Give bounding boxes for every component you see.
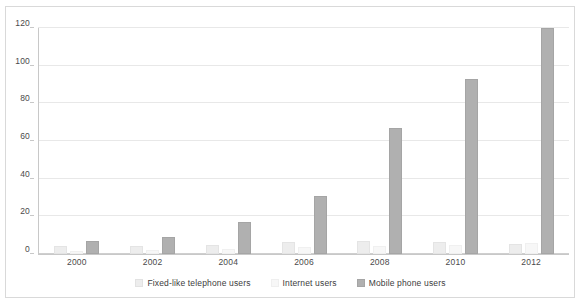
bar-group-2004 <box>190 28 266 254</box>
bar-group-2010 <box>418 28 494 254</box>
bar-2004-fixed[interactable] <box>206 245 219 254</box>
bar-2010-internet[interactable] <box>449 245 462 254</box>
y-axis-tick <box>30 215 34 216</box>
legend-swatch-icon <box>357 279 365 287</box>
bar-group-2008 <box>342 28 418 254</box>
bar-groups <box>39 28 569 254</box>
bar-2012-internet[interactable] <box>525 243 538 254</box>
legend-swatch-icon <box>135 279 143 287</box>
y-axis-tick <box>30 102 34 103</box>
y-axis: 020406080100120 <box>0 28 34 254</box>
legend-label: Internet users <box>283 278 337 288</box>
y-axis-tick <box>30 27 34 28</box>
bar-2008-fixed[interactable] <box>357 241 370 254</box>
bar-2010-fixed[interactable] <box>433 242 446 254</box>
y-axis-tick-label: 80 <box>20 93 30 103</box>
bar-group-2012 <box>493 28 569 254</box>
x-axis-tick-label: 2004 <box>190 257 266 271</box>
bar-group-2000 <box>39 28 115 254</box>
bar-2002-mobile[interactable] <box>162 237 175 254</box>
x-axis-tick-label: 2006 <box>266 257 342 271</box>
bar-2000-mobile[interactable] <box>86 241 99 254</box>
y-axis-tick <box>30 178 34 179</box>
x-axis-tick-label: 2002 <box>115 257 191 271</box>
y-axis-tick <box>30 140 34 141</box>
y-axis-tick-label: 100 <box>15 56 30 66</box>
bar-2006-internet[interactable] <box>298 247 311 254</box>
x-axis-tick-label: 2010 <box>418 257 494 271</box>
y-axis-tick-label: 20 <box>20 206 30 216</box>
x-axis-tick-label: 2012 <box>493 257 569 271</box>
bar-2002-fixed[interactable] <box>130 246 143 254</box>
y-axis-tick-label: 60 <box>20 131 30 141</box>
y-axis-tick-label: 40 <box>20 169 30 179</box>
legend-label: Fixed-like telephone users <box>147 278 250 288</box>
y-axis-tick <box>30 253 34 254</box>
bar-group-2002 <box>115 28 191 254</box>
legend-swatch-icon <box>271 279 279 287</box>
bar-2010-mobile[interactable] <box>465 79 478 254</box>
legend-item-fixed[interactable]: Fixed-like telephone users <box>135 278 250 288</box>
y-axis-tick-label: 120 <box>15 18 30 28</box>
x-axis-tick-label: 2008 <box>342 257 418 271</box>
chart-legend: Fixed-like telephone usersInternet users… <box>0 278 581 288</box>
bar-2004-mobile[interactable] <box>238 222 251 254</box>
bar-2006-mobile[interactable] <box>314 196 327 254</box>
x-axis: 2000200220042006200820102012 <box>39 257 569 271</box>
y-axis-tick <box>30 65 34 66</box>
bar-2012-mobile[interactable] <box>541 28 554 254</box>
legend-item-mobile[interactable]: Mobile phone users <box>357 278 446 288</box>
plot-area <box>38 28 569 254</box>
bar-2008-mobile[interactable] <box>389 128 402 254</box>
bar-group-2006 <box>266 28 342 254</box>
legend-label: Mobile phone users <box>369 278 446 288</box>
bar-2012-fixed[interactable] <box>509 244 522 254</box>
bar-2006-fixed[interactable] <box>282 242 295 254</box>
bar-2008-internet[interactable] <box>373 246 386 254</box>
chart-container: 020406080100120 200020022004200620082010… <box>0 0 581 305</box>
legend-item-internet[interactable]: Internet users <box>271 278 337 288</box>
x-axis-line <box>38 254 569 255</box>
x-axis-tick-label: 2000 <box>39 257 115 271</box>
bar-2000-fixed[interactable] <box>54 246 67 254</box>
